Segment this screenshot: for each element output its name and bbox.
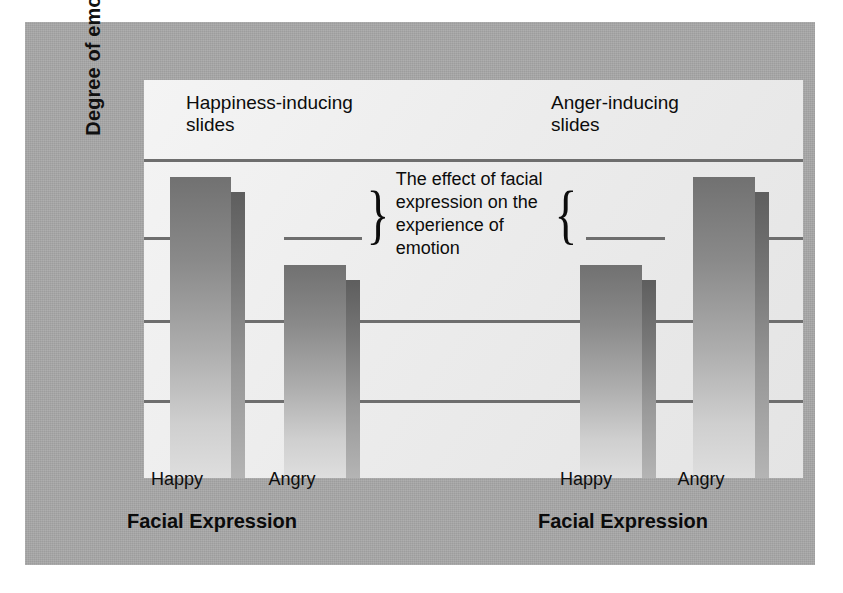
- panel-title-anger: Anger-inducing slides: [551, 92, 679, 136]
- gridline-level-1-seg-1: [144, 400, 170, 403]
- brace-right-icon: {: [554, 185, 577, 243]
- annotation-callout: } The effect of facial expression on the…: [362, 168, 592, 260]
- tick-label-anger-happy: Happy: [541, 469, 631, 490]
- x-axis-title-left: Facial Expression: [92, 510, 332, 533]
- y-axis-title: Degree of emotion: [73, 0, 113, 192]
- gridline-level-1-seg-5: [764, 400, 803, 403]
- gridline-level-3-seg-8: [586, 237, 665, 240]
- gridline-level-1-seg-3: [356, 400, 580, 403]
- gridline-level-2-seg-5: [764, 320, 803, 323]
- bar-happiness-happy-shadow: [231, 192, 245, 478]
- bar-happiness-angry: [284, 265, 346, 478]
- gridline-level-2-seg-1: [144, 320, 170, 323]
- bar-anger-angry: [693, 177, 755, 478]
- gridline-level-3-seg-9: [764, 237, 803, 240]
- gridline-level-1-seg-4: [654, 400, 693, 403]
- bar-anger-happy-shadow: [642, 280, 656, 478]
- gridline-level-3-seg-1: [144, 237, 170, 240]
- tick-label-happiness-happy: Happy: [132, 469, 222, 490]
- gridline-level-2-seg-3: [356, 320, 580, 323]
- tick-label-anger-angry: Angry: [656, 469, 746, 490]
- brace-left-icon: }: [366, 185, 389, 243]
- panel-title-happiness: Happiness-inducing slides: [186, 92, 353, 136]
- x-axis-title-right: Facial Expression: [503, 510, 743, 533]
- annotation-text: The effect of facial expression on the e…: [396, 168, 548, 260]
- bar-anger-angry-shadow: [755, 192, 769, 478]
- bar-anger-happy: [580, 265, 642, 478]
- gridline-level-3-seg-2: [284, 237, 362, 240]
- chart-card: Degree of emotion Happiness-inducing sli…: [25, 22, 815, 565]
- plot-panel: Happiness-inducing slides Anger-inducing…: [144, 80, 803, 478]
- chart-figure: Degree of emotion Happiness-inducing sli…: [0, 0, 843, 593]
- y-axis-title-label: Degree of emotion: [82, 0, 105, 136]
- gridline-level-2-seg-4: [654, 320, 693, 323]
- bar-happiness-angry-shadow: [346, 280, 360, 478]
- tick-label-happiness-angry: Angry: [247, 469, 337, 490]
- gridline-top: [144, 159, 803, 162]
- bar-happiness-happy: [170, 177, 231, 478]
